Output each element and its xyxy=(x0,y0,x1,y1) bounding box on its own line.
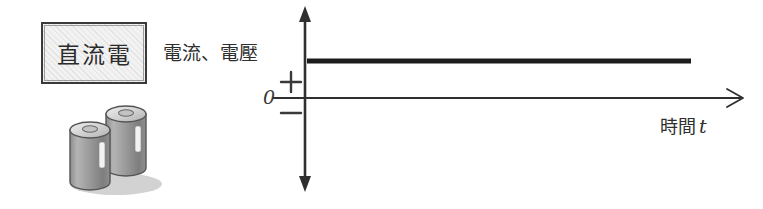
dc-waveform-figure: 直流電 xyxy=(0,0,763,209)
y-axis-label: 電流、電壓 xyxy=(163,38,258,65)
vertical-axis xyxy=(299,6,311,192)
dc-source-label-text: 直流電 xyxy=(57,36,132,70)
battery-terminal-front xyxy=(83,126,98,132)
dc-source-label-box: 直流電 xyxy=(41,22,147,84)
battery-label-stripe-back xyxy=(135,126,141,152)
x-axis-label-text: 時間 xyxy=(660,116,696,137)
battery-label-stripe-front xyxy=(99,142,105,168)
battery-back xyxy=(106,106,146,176)
y-axis-arrow-up xyxy=(299,6,311,22)
battery-terminal-back xyxy=(119,110,134,116)
y-axis-arrow-down xyxy=(299,176,311,192)
battery-illustration xyxy=(48,92,168,200)
x-axis-label: 時間t xyxy=(660,112,707,138)
dc-graph xyxy=(255,0,763,209)
origin-zero-label: 0 xyxy=(263,86,275,108)
time-axis xyxy=(273,89,743,107)
x-axis-label-variable: t xyxy=(696,115,707,137)
axis-polarity-marks xyxy=(281,72,301,113)
battery-front xyxy=(70,122,110,190)
